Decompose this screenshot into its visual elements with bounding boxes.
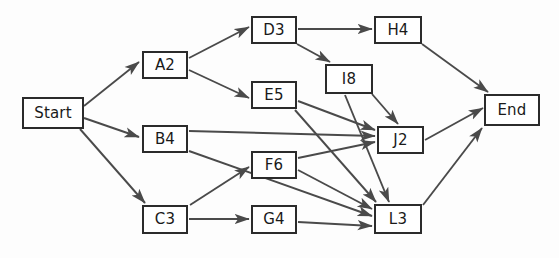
node-label-f6: F6 [265,158,284,173]
edge-g4-to-l3 [298,222,372,226]
edge-start-to-a2 [84,62,139,106]
edge-b4-to-j2 [189,131,375,136]
node-j2[interactable]: J2 [377,126,424,154]
edge-a2-to-d3 [189,27,249,58]
node-label-c3: C3 [155,212,175,227]
node-f6[interactable]: F6 [251,151,297,179]
node-label-g4: G4 [263,212,285,227]
node-label-i8: I8 [342,72,356,87]
node-label-j2: J2 [393,133,407,148]
node-e5[interactable]: E5 [251,81,297,109]
node-l3[interactable]: L3 [374,204,422,234]
node-d3[interactable]: D3 [251,16,297,44]
edge-a2-to-e5 [189,70,249,98]
node-c3[interactable]: C3 [142,205,188,234]
edge-d3-to-i8 [297,44,330,62]
node-end[interactable]: End [484,94,540,126]
node-label-a2: A2 [155,58,175,73]
edge-start-to-c3 [80,129,145,203]
node-start[interactable]: Start [22,97,84,129]
node-label-l3: L3 [389,212,407,227]
edge-c3-to-f6 [190,167,249,205]
edge-h4-to-end [422,44,488,92]
node-label-end: End [497,103,526,118]
diagram-canvas: StartA2B4C3D3E5F6G4H4I8J2L3End [0,0,559,258]
node-label-b4: B4 [155,132,175,147]
edge-j2-to-end [425,108,483,140]
node-label-start: Start [34,106,72,121]
node-label-h4: H4 [387,23,408,38]
node-g4[interactable]: G4 [251,205,297,234]
node-h4[interactable]: H4 [374,16,422,44]
node-b4[interactable]: B4 [142,125,188,153]
node-label-e5: E5 [264,88,283,103]
node-a2[interactable]: A2 [142,51,188,79]
edge-f6-to-j2 [298,142,375,158]
edge-i8-to-j2 [372,94,398,124]
node-label-d3: D3 [263,23,285,38]
node-i8[interactable]: I8 [325,64,373,94]
edge-l3-to-end [423,128,482,205]
edge-start-to-b4 [84,118,139,137]
